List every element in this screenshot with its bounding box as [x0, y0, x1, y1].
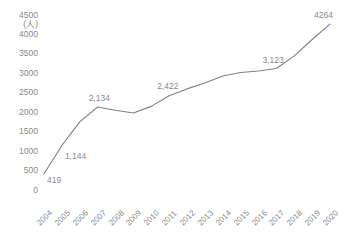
series-line-svg — [38, 0, 344, 195]
x-axis-tick-label: 2012 — [178, 208, 197, 227]
x-axis-tick-label: 2006 — [71, 208, 90, 227]
x-axis-tick-label: 2017 — [267, 208, 286, 227]
data-point-label: 419 — [47, 176, 61, 185]
y-axis-tick-label: 1000 — [4, 147, 38, 156]
data-point-label: 2,422 — [157, 82, 178, 91]
x-axis-tick-label: 2004 — [35, 208, 54, 227]
x-axis-tick-label: 2015 — [232, 208, 251, 227]
x-axis-tick-label: 2013 — [196, 208, 215, 227]
x-axis-tick-label: 2005 — [53, 208, 72, 227]
y-axis-tick-label: 500 — [4, 166, 38, 175]
x-axis-tick-label: 2009 — [124, 208, 143, 227]
plot-area: 4191,1442,1342,4223,1234264 — [38, 0, 344, 195]
y-axis-tick-label: 4000 — [4, 30, 38, 39]
y-axis-unit-label: (人) — [4, 20, 38, 29]
x-axis-tick-label: 2014 — [214, 208, 233, 227]
y-axis-tick-label: 3500 — [4, 49, 38, 58]
x-axis-tick-label: 2019 — [303, 208, 322, 227]
x-axis-tick-label: 2016 — [250, 208, 269, 227]
data-point-label: 4264 — [314, 11, 333, 20]
x-axis-tick-label: 2018 — [285, 208, 304, 227]
x-axis-tick-label: 2008 — [107, 208, 126, 227]
y-axis: 050010001500200025003000350040004500(人) — [0, 0, 38, 195]
line-chart: 050010001500200025003000350040004500(人) … — [0, 0, 344, 234]
y-axis-tick-label: 2500 — [4, 88, 38, 97]
x-axis-tick-label: 2010 — [142, 208, 161, 227]
x-axis-tick-label: 2011 — [160, 209, 179, 228]
x-axis-tick-label: 2020 — [321, 208, 340, 227]
data-point-label: 2,134 — [89, 94, 110, 103]
x-axis: 2004200520062007200820092010201120122013… — [38, 193, 344, 234]
y-axis-tick-label: 3000 — [4, 69, 38, 78]
y-axis-tick-label: 2000 — [4, 108, 38, 117]
series-line — [44, 24, 330, 174]
data-point-label: 1,144 — [65, 152, 86, 161]
x-axis-tick-label: 2007 — [89, 208, 108, 227]
data-point-label: 3,123 — [262, 56, 283, 65]
y-axis-tick-label: 1500 — [4, 127, 38, 136]
y-axis-tick-label: 0 — [4, 186, 38, 195]
